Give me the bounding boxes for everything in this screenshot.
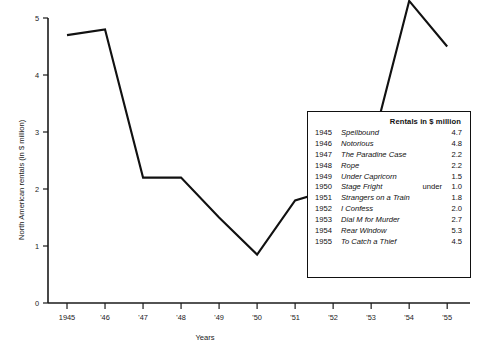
y-tick-label: 2 <box>35 185 39 194</box>
legend-row-qualifier <box>416 204 442 215</box>
legend-row-title: Rope <box>341 161 416 172</box>
legend-row: 1945Spellbound4.7 <box>315 128 462 139</box>
y-tick-label: 3 <box>35 128 39 137</box>
legend-row-year: 1950 <box>315 182 341 193</box>
x-tick-label: '50 <box>252 313 262 322</box>
chart-figure: 012345 North American rentals (in $ mill… <box>0 0 478 355</box>
legend-row-qualifier <box>416 226 442 237</box>
x-tick-label: '52 <box>328 313 338 322</box>
legend-row-year: 1949 <box>315 172 341 183</box>
legend-row-value: 2.0 <box>442 204 462 215</box>
legend-row: 1946Notorious4.8 <box>315 139 462 150</box>
legend-row: 1947The Paradine Case2.2 <box>315 150 462 161</box>
y-axis-tick-labels: 012345 <box>35 14 39 308</box>
y-tick-label: 4 <box>35 71 39 80</box>
legend-row-value: 2.2 <box>442 150 462 161</box>
legend-row-year: 1948 <box>315 161 341 172</box>
legend-row-qualifier <box>416 139 442 150</box>
legend-row-title: Under Capricorn <box>341 172 416 183</box>
y-tick-label: 1 <box>35 242 39 251</box>
legend-row-year: 1951 <box>315 193 341 204</box>
legend-row: 1955To Catch a Thief4.5 <box>315 237 462 248</box>
legend-row-value: 4.5 <box>442 237 462 248</box>
x-axis-tick-labels: 1945'46'47'48'49'50'51'52'53'54'55 <box>59 313 452 322</box>
legend-row-value: 2.2 <box>442 161 462 172</box>
y-axis: 012345 North American rentals (in $ mill… <box>17 14 48 308</box>
legend-row: 1953Dial M for Murder2.7 <box>315 215 462 226</box>
x-tick-label: '53 <box>366 313 376 322</box>
legend-header: Rentals in $ million <box>315 117 462 128</box>
legend-row-qualifier <box>416 150 442 161</box>
legend-row-value: 4.7 <box>442 128 462 139</box>
x-tick-label: '48 <box>176 313 186 322</box>
legend-row-title: Stage Fright <box>341 182 416 193</box>
legend-row-year: 1947 <box>315 150 341 161</box>
x-axis-title: Years <box>195 333 214 342</box>
legend-row-qualifier <box>416 128 442 139</box>
legend-rows-table: 1945Spellbound4.71946Notorious4.81947The… <box>315 128 462 248</box>
y-axis-title: North American rentals (in $ million) <box>17 119 26 240</box>
legend-row-qualifier <box>416 193 442 204</box>
legend-row-year: 1954 <box>315 226 341 237</box>
legend-row-value: 1.5 <box>442 172 462 183</box>
legend-row-title: The Paradine Case <box>341 150 416 161</box>
x-tick-label: '47 <box>138 313 148 322</box>
legend-row-year: 1952 <box>315 204 341 215</box>
legend-row-title: Rear Window <box>341 226 416 237</box>
legend-row-title: Dial M for Murder <box>341 215 416 226</box>
legend-row-year: 1953 <box>315 215 341 226</box>
legend-row-year: 1945 <box>315 128 341 139</box>
legend-row-value: 2.7 <box>442 215 462 226</box>
legend-row-value: 1.0 <box>442 182 462 193</box>
x-tick-label: '54 <box>404 313 414 322</box>
x-tick-label: '49 <box>214 313 224 322</box>
x-axis-ticks <box>67 303 447 309</box>
legend-row-value: 4.8 <box>442 139 462 150</box>
legend-row-qualifier <box>416 215 442 226</box>
legend-row-year: 1955 <box>315 237 341 248</box>
legend-row: 1952I Confess2.0 <box>315 204 462 215</box>
legend-row-title: I Confess <box>341 204 416 215</box>
y-tick-label: 5 <box>35 14 39 23</box>
legend-row-value: 5.3 <box>442 226 462 237</box>
y-tick-label: 0 <box>35 299 39 308</box>
legend-data-table: Rentals in $ million 1945Spellbound4.719… <box>307 111 471 278</box>
legend-row-title: Notorious <box>341 139 416 150</box>
x-tick-label: '51 <box>290 313 300 322</box>
x-tick-label: 1945 <box>59 313 75 322</box>
legend-row: 1949Under Capricorn1.5 <box>315 172 462 183</box>
legend-row-qualifier <box>416 161 442 172</box>
legend-row-value: 1.8 <box>442 193 462 204</box>
legend-row-year: 1946 <box>315 139 341 150</box>
legend-row: 1954Rear Window5.3 <box>315 226 462 237</box>
legend-row-title: Strangers on a Train <box>341 193 416 204</box>
legend-row-qualifier <box>416 172 442 183</box>
legend-row-qualifier: under <box>416 182 442 193</box>
legend-row: 1951Strangers on a Train1.8 <box>315 193 462 204</box>
x-tick-label: '46 <box>100 313 110 322</box>
x-axis: 1945'46'47'48'49'50'51'52'53'54'55 Years <box>48 303 470 342</box>
legend-row: 1948Rope2.2 <box>315 161 462 172</box>
legend-row-title: To Catch a Thief <box>341 237 416 248</box>
legend-row-title: Spellbound <box>341 128 416 139</box>
legend-row-qualifier <box>416 237 442 248</box>
legend-row: 1950Stage Frightunder1.0 <box>315 182 462 193</box>
x-tick-label: '55 <box>442 313 452 322</box>
